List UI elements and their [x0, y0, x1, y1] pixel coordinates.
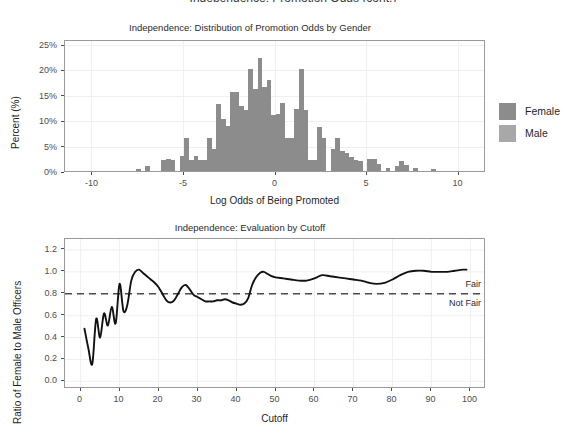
y-tick-label: 0.0: [17, 375, 57, 385]
x-tick-mark: [275, 172, 276, 175]
y-tick-mark: [61, 380, 64, 381]
x-tick-label: 5: [364, 178, 369, 188]
x-tick-mark: [236, 388, 237, 391]
legend-label-female: Female: [525, 105, 560, 117]
x-tick-label: -10: [85, 178, 98, 188]
y-tick-mark: [61, 172, 64, 173]
histogram-plot-area: [64, 40, 485, 172]
x-tick-mark: [458, 172, 459, 175]
legend-swatch-female: [499, 103, 516, 120]
x-tick-mark: [275, 388, 276, 391]
y-tick-label: 0.6: [17, 310, 57, 320]
histogram-title: Independence: Distribution of Promotion …: [20, 22, 480, 33]
annotation-not-fair: Not Fair: [449, 298, 481, 308]
y-tick-mark: [61, 314, 64, 315]
x-tick-mark: [366, 172, 367, 175]
grid-line-vertical: [366, 41, 367, 171]
x-tick-mark: [119, 388, 120, 391]
evaluation-plot-area: [64, 238, 485, 388]
evaluation-line-svg: [65, 239, 485, 388]
x-tick-label: 10: [114, 394, 124, 404]
x-tick-mark: [469, 388, 470, 391]
x-tick-label: 0: [77, 394, 82, 404]
y-tick-mark: [61, 121, 64, 122]
cut-off-header-text: Independence: Promotion Odds (cont.): [0, 0, 586, 2]
grid-line-horizontal: [65, 96, 484, 97]
histogram-bar: [136, 169, 141, 171]
y-tick-mark: [61, 292, 64, 293]
x-tick-label: -5: [179, 178, 187, 188]
histogram-bar: [404, 165, 409, 171]
x-tick-mark: [313, 388, 314, 391]
x-tick-mark: [352, 388, 353, 391]
legend-swatch-male: [499, 125, 516, 142]
y-tick-label: 15%: [17, 91, 57, 101]
y-tick-label: 10%: [17, 116, 57, 126]
x-tick-label: 70: [347, 394, 357, 404]
histogram-bar: [145, 166, 150, 171]
y-tick-mark: [61, 95, 64, 96]
x-tick-label: 20: [153, 394, 163, 404]
histogram-bar: [171, 160, 176, 171]
grid-line-horizontal: [65, 45, 484, 46]
evaluation-y-axis-title: Ratio of Female to Male Officers: [12, 281, 23, 424]
gender-legend: Female Male: [499, 100, 560, 144]
y-tick-mark: [61, 358, 64, 359]
evaluation-title: Independence: Evaluation by Cutoff: [40, 222, 460, 233]
legend-item-male[interactable]: Male: [499, 122, 560, 144]
histogram-bar: [358, 161, 363, 171]
y-tick-label: 0.2: [17, 353, 57, 363]
x-tick-label: 0: [272, 178, 277, 188]
x-tick-label: 50: [269, 394, 279, 404]
y-tick-label: 1.2: [17, 244, 57, 254]
legend-label-male: Male: [525, 127, 548, 139]
y-tick-mark: [61, 336, 64, 337]
evaluation-x-axis-title: Cutoff: [64, 413, 485, 424]
histogram-bar: [413, 168, 418, 171]
y-tick-mark: [61, 45, 64, 46]
histogram-bar: [322, 138, 327, 172]
x-tick-mark: [430, 388, 431, 391]
y-tick-label: 0.8: [17, 288, 57, 298]
x-tick-mark: [80, 388, 81, 391]
x-tick-label: 30: [192, 394, 202, 404]
figure-page: Independence: Promotion Odds (cont.) Ind…: [0, 0, 586, 445]
histogram-bar: [386, 168, 391, 171]
x-tick-mark: [391, 388, 392, 391]
x-tick-label: 90: [425, 394, 435, 404]
x-tick-mark: [197, 388, 198, 391]
grid-line-vertical: [91, 41, 92, 171]
histogram-bar: [377, 164, 382, 171]
grid-line-horizontal: [65, 70, 484, 71]
x-tick-label: 100: [462, 394, 477, 404]
histogram-x-axis-title: Log Odds of Being Promoted: [64, 195, 485, 206]
grid-line-vertical: [458, 41, 459, 171]
x-tick-label: 40: [231, 394, 241, 404]
y-tick-label: 25%: [17, 40, 57, 50]
y-tick-label: 20%: [17, 65, 57, 75]
x-tick-mark: [158, 388, 159, 391]
evaluation-panel: Independence: Evaluation by Cutoff Ratio…: [0, 214, 586, 445]
y-tick-label: 1.0: [17, 266, 57, 276]
annotation-fair: Fair: [466, 279, 482, 289]
y-tick-label: 0%: [17, 167, 57, 177]
y-tick-mark: [61, 270, 64, 271]
y-tick-mark: [61, 146, 64, 147]
y-tick-mark: [61, 248, 64, 249]
x-tick-mark: [183, 172, 184, 175]
y-tick-label: 0.4: [17, 332, 57, 342]
x-tick-label: 60: [308, 394, 318, 404]
y-tick-label: 5%: [17, 142, 57, 152]
x-tick-label: 10: [453, 178, 463, 188]
histogram-bar: [431, 169, 436, 171]
legend-item-female[interactable]: Female: [499, 100, 560, 122]
x-tick-label: 80: [386, 394, 396, 404]
x-tick-mark: [91, 172, 92, 175]
y-tick-mark: [61, 70, 64, 71]
